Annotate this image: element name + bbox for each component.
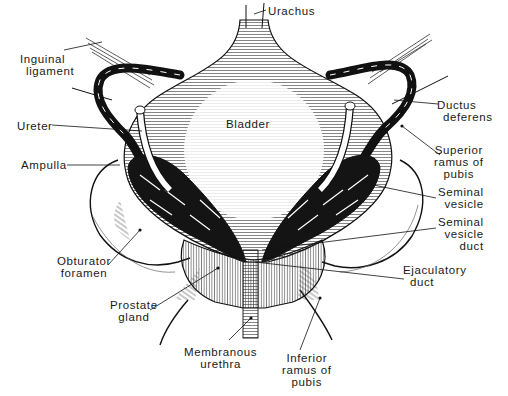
label-inferior-ramus-of-pubis: Inferior ramus of pubis: [282, 352, 332, 388]
anatomy-diagram: Urachus Inguinal ligament Ureter Bladder…: [0, 0, 508, 396]
label-obturator-foramen: Obturator foramen: [57, 255, 111, 279]
label-urachus: Urachus: [268, 5, 315, 17]
membranous-urethra: [243, 250, 258, 338]
inguinal-ligament-right: [368, 34, 432, 84]
label-inguinal-ligament: Inguinal ligament: [20, 53, 74, 77]
label-seminal-vesicle-duct: Seminal vesicle duct: [438, 216, 484, 252]
label-ductus-deferens: Ductus deferens: [437, 99, 493, 123]
label-seminal-vesicle: Seminal vesicle: [438, 186, 484, 210]
label-prostate-gland: Prostate gland: [110, 299, 158, 323]
pelvic-illustration: [0, 0, 508, 396]
label-ampulla: Ampulla: [21, 159, 67, 171]
label-bladder: Bladder: [226, 118, 270, 130]
label-ejaculatory-duct: Ejaculatory duct: [403, 264, 467, 288]
label-ureter: Ureter: [17, 120, 53, 132]
label-superior-ramus-of-pubis: Superior ramus of pubis: [434, 144, 484, 180]
label-membranous-urethra: Membranous urethra: [184, 346, 257, 370]
